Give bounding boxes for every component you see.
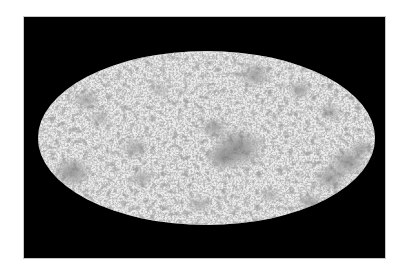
sky-map	[0, 0, 410, 273]
map-ellipse	[30, 45, 385, 235]
map-texture-highlights	[30, 45, 385, 235]
